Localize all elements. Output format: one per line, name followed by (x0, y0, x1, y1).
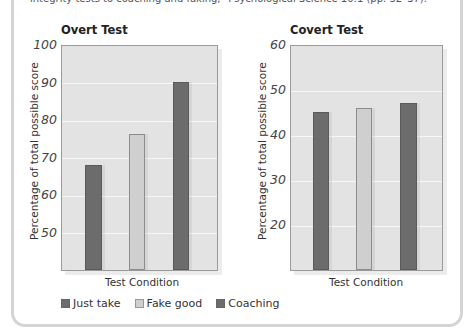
legend-item-coaching: Coaching (216, 297, 279, 310)
chart-legend: Just take Fake good Coaching (61, 297, 279, 310)
overt-tick-100: 100 (27, 37, 57, 52)
overt-tick-80: 80 (27, 112, 57, 127)
covert-plot-area (290, 45, 443, 271)
overt-bar-just-take (85, 165, 102, 270)
overt-plot-area (61, 45, 218, 271)
covert-bar-just-take (313, 112, 329, 270)
covert-tick-20: 20 (256, 217, 286, 232)
legend-item-just-take: Just take (61, 297, 121, 310)
legend-swatch-icon (216, 299, 225, 308)
legend-label: Fake good (147, 297, 203, 310)
legend-label: Coaching (228, 297, 279, 310)
covert-tick-60: 60 (256, 37, 286, 52)
covert-bar-coaching (400, 103, 417, 270)
figure-caption: integrity tests to coaching and faking,"… (30, 0, 427, 4)
overt-tick-60: 60 (27, 187, 57, 202)
legend-swatch-icon (135, 299, 144, 308)
overt-chart-title: Overt Test (61, 23, 128, 37)
overt-tick-70: 70 (27, 150, 57, 165)
covert-chart-title: Covert Test (290, 23, 363, 37)
covert-tick-50: 50 (256, 82, 286, 97)
legend-label: Just take (73, 297, 121, 310)
covert-x-axis-label: Test Condition (329, 276, 403, 288)
covert-tick-40: 40 (256, 127, 286, 142)
overt-x-axis-label: Test Condition (105, 276, 179, 288)
gridline (62, 121, 217, 122)
overt-bar-fake-good (129, 134, 145, 270)
gridline (62, 83, 217, 84)
covert-tick-30: 30 (256, 172, 286, 187)
overt-bar-coaching (173, 82, 189, 270)
gridline (291, 91, 442, 92)
legend-swatch-icon (61, 299, 70, 308)
overt-tick-50: 50 (27, 225, 57, 240)
legend-item-fake-good: Fake good (135, 297, 203, 310)
covert-bar-fake-good (356, 108, 372, 270)
overt-tick-90: 90 (27, 75, 57, 90)
